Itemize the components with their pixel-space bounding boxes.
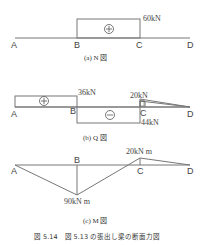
point-a-label: A — [11, 109, 17, 119]
point-c-label: C — [137, 166, 144, 176]
q-value-44: 44kN — [141, 118, 159, 127]
point-d-label: D — [187, 166, 194, 176]
point-b-label: B — [74, 155, 80, 165]
m-caption: (c) M 図 — [83, 217, 108, 225]
n-diagram: 60kN A B C D (a) N 図 — [11, 14, 194, 62]
q-value-20: 20kN — [130, 91, 148, 100]
point-c-label: C — [140, 108, 147, 118]
n-positive-region — [77, 19, 140, 38]
n-value-60: 60kN — [143, 14, 161, 23]
point-d-label: D — [187, 109, 194, 119]
point-b-label: B — [74, 40, 80, 50]
q-triangle-slope — [140, 99, 190, 107]
m-value-90: 90kN m — [64, 197, 91, 206]
q-caption: (b) Q 図 — [83, 134, 107, 142]
point-b-label: B — [70, 106, 76, 116]
point-c-label: C — [136, 40, 143, 50]
beam-force-diagrams: 60kN A B C D (a) N 図 36kN 20kN 44kN A B … — [0, 0, 203, 245]
figure-title: 図 5.14 図 5.13 の張出し梁の断面力図 — [34, 232, 160, 241]
q-value-36: 36kN — [78, 88, 96, 97]
n-caption: (a) N 図 — [84, 54, 107, 62]
point-a-label: A — [11, 40, 17, 50]
m-diagram: A B C D 90kN m 20kN m (c) M 図 — [11, 147, 194, 225]
point-a-label: A — [11, 166, 17, 176]
q-diagram: 36kN 20kN 44kN A B C D (b) Q 図 — [11, 88, 194, 142]
point-d-label: D — [187, 40, 194, 50]
m-value-20: 20kN m — [126, 147, 153, 156]
m-moment-curve — [15, 158, 190, 195]
